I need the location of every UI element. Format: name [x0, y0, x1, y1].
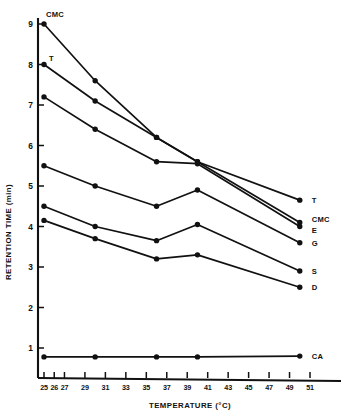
x-tick-label-39: 39: [183, 383, 191, 392]
data-point-CMC-30: [92, 78, 97, 83]
y-tick-layer: 123456789: [28, 19, 44, 353]
data-point-T-25: [41, 62, 46, 67]
x-tick-label-45: 45: [245, 383, 253, 392]
series-line-S: [44, 206, 300, 271]
series-layer: [44, 24, 300, 357]
series-end-label-CA: CA: [312, 352, 324, 361]
x-tick-label-41: 41: [204, 383, 212, 392]
data-point-D-50: [297, 285, 302, 290]
series-line-T: [44, 65, 300, 201]
axes-layer: [38, 18, 341, 381]
data-point-D-40: [195, 252, 200, 257]
y-tick-label-5: 5: [28, 181, 33, 191]
series-line-G: [44, 166, 300, 243]
series-end-label-E: E: [312, 226, 317, 235]
data-point-D-36: [154, 256, 159, 261]
x-tick-label-35: 35: [143, 383, 151, 392]
data-point-CMC-25: [41, 21, 46, 26]
y-tick-label-3: 3: [28, 262, 33, 272]
annotation-CMC: CMC: [46, 10, 64, 19]
data-point-S-50: [297, 268, 302, 273]
y-tick-label-4: 4: [28, 222, 33, 232]
data-point-CA-36: [154, 354, 159, 359]
data-point-E-40: [195, 161, 200, 166]
chart-canvas: 123456789 252627293133353739414345474951…: [0, 0, 347, 416]
data-point-E-36: [154, 159, 159, 164]
data-point-G-50: [297, 240, 302, 245]
x-tick-label-27: 27: [61, 383, 69, 392]
series-line-E: [44, 97, 300, 227]
x-tick-label-31: 31: [102, 383, 110, 392]
data-point-D-30: [92, 236, 97, 241]
data-point-G-40: [195, 187, 200, 192]
data-point-T-50: [297, 197, 302, 202]
data-point-T-36: [154, 135, 159, 140]
data-point-G-36: [154, 204, 159, 209]
data-point-E-25: [41, 94, 46, 99]
y-tick-label-1: 1: [28, 343, 33, 353]
x-tick-layer: 252627293133353739414345474951: [40, 372, 314, 392]
data-point-CA-25: [41, 354, 46, 359]
data-point-CA-50: [297, 353, 302, 358]
series-end-label-S: S: [312, 267, 317, 276]
x-tick-label-49: 49: [286, 383, 294, 392]
data-point-S-25: [41, 204, 46, 209]
data-point-CA-30: [92, 354, 97, 359]
series-end-label-T: T: [312, 196, 317, 205]
y-tick-label-6: 6: [28, 141, 33, 151]
marker-layer: [41, 21, 302, 359]
data-point-E-30: [92, 127, 97, 132]
x-tick-label-29: 29: [81, 383, 89, 392]
series-end-label-G: G: [312, 239, 318, 248]
data-point-G-25: [41, 163, 46, 168]
data-point-G-30: [92, 183, 97, 188]
data-point-CA-40: [195, 354, 200, 359]
y-tick-label-7: 7: [28, 100, 33, 110]
data-point-T-30: [92, 98, 97, 103]
data-point-D-25: [41, 218, 46, 223]
x-axis-line: [38, 378, 341, 381]
x-tick-label-26: 26: [50, 383, 58, 392]
x-tick-label-33: 33: [122, 383, 130, 392]
data-point-E-50: [297, 224, 302, 229]
x-axis-title: TEMPERATURE (°C): [149, 401, 231, 410]
x-tick-label-51: 51: [306, 383, 314, 392]
annotation-T: T: [49, 54, 54, 63]
data-point-S-30: [92, 224, 97, 229]
series-end-label-D: D: [312, 283, 318, 292]
series-line-CMC: [44, 24, 300, 222]
x-tick-label-43: 43: [224, 383, 232, 392]
x-tick-label-25: 25: [40, 383, 48, 392]
y-axis-title: RETENTION TIME (min): [4, 184, 13, 280]
series-end-label-CMC: CMC: [312, 215, 330, 224]
data-point-S-40: [195, 222, 200, 227]
series-end-labels: CMCTEGSDCA: [312, 196, 330, 361]
x-tick-label-37: 37: [163, 383, 171, 392]
x-tick-label-47: 47: [265, 383, 273, 392]
series-line-CA: [44, 356, 300, 357]
y-tick-label-8: 8: [28, 60, 33, 70]
data-point-S-36: [154, 238, 159, 243]
y-tick-label-2: 2: [28, 303, 33, 313]
retention-time-chart: 123456789 252627293133353739414345474951…: [0, 0, 347, 416]
y-tick-label-9: 9: [28, 19, 33, 29]
